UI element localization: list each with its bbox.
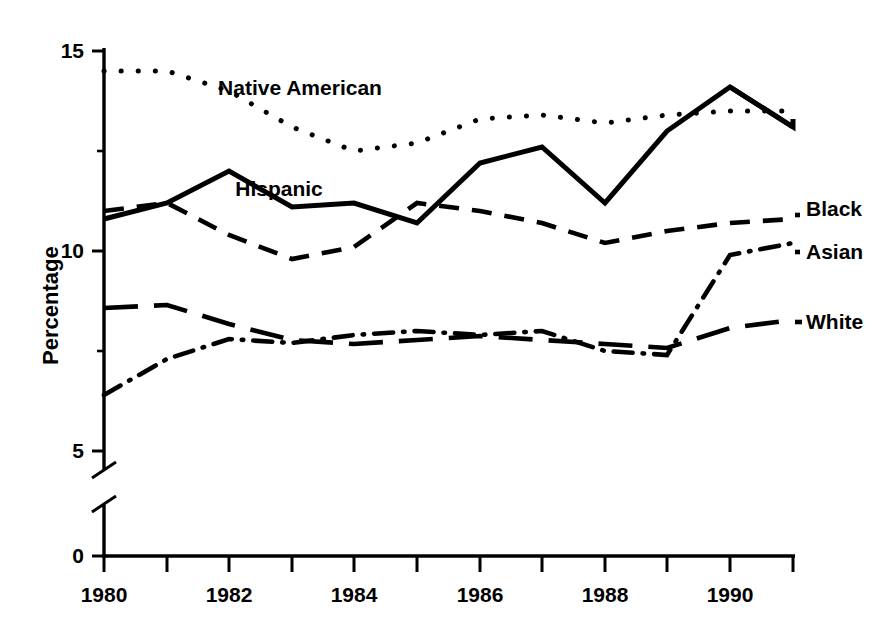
y-axis-major-ticks [92, 51, 104, 556]
y-tick-label-0: 0 [40, 544, 84, 568]
chart-plot-area [0, 0, 884, 643]
x-tick-label-1980: 1980 [81, 583, 128, 607]
x-tick-label-1984: 1984 [331, 583, 378, 607]
series-line-black [104, 203, 793, 259]
chart-container: Percentage 15 10 5 0 1980 1982 1984 1986… [0, 0, 884, 643]
series-label-black: Black [806, 197, 862, 221]
x-axis-ticks [104, 556, 793, 572]
series-label-asian: Asian [806, 240, 863, 264]
series-line-white [104, 305, 793, 348]
series-line-hispanic [104, 87, 793, 223]
y-tick-label-15: 15 [40, 39, 84, 63]
x-tick-label-1982: 1982 [206, 583, 253, 607]
y-tick-label-10: 10 [40, 239, 84, 263]
series-label-white: White [806, 310, 863, 334]
x-tick-label-1988: 1988 [582, 583, 629, 607]
series-line-native-american [104, 71, 793, 151]
series-label-hispanic: Hispanic [235, 177, 323, 201]
y-axis-title: Percentage [38, 246, 64, 365]
y-tick-label-5: 5 [40, 439, 84, 463]
series-label-native-american: Native American [218, 76, 382, 100]
x-tick-label-1990: 1990 [707, 583, 754, 607]
series-line-hispanic-tail [730, 87, 793, 127]
x-tick-label-1986: 1986 [457, 583, 504, 607]
